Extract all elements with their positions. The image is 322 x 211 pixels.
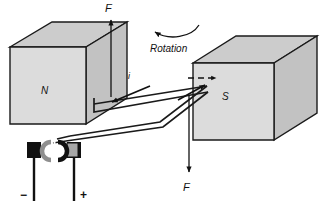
south-block-front-face: [193, 63, 274, 140]
rotation-arc: [155, 25, 199, 37]
figure-canvas: N S: [0, 0, 322, 211]
rotation-label: Rotation: [150, 43, 188, 54]
rotation-arrow: Rotation: [150, 25, 199, 54]
brush-negative: [27, 142, 41, 158]
terminal-positive-label: +: [80, 188, 87, 202]
motor-diagram-svg: N S: [0, 0, 322, 211]
north-pole-label: N: [41, 85, 49, 96]
terminal-negative-label: −: [20, 188, 27, 202]
south-pole-label: S: [222, 91, 229, 102]
terminal-leads: − +: [20, 158, 87, 202]
force-bottom-label: F: [183, 181, 191, 193]
current-label: i: [128, 71, 131, 81]
wire-tail-left-a: [57, 136, 70, 139]
south-magnet-block: S: [193, 36, 317, 140]
commutator-segment-left: [42, 142, 51, 160]
commutator-ring-right: [58, 142, 67, 160]
force-top-label: F: [105, 2, 113, 14]
